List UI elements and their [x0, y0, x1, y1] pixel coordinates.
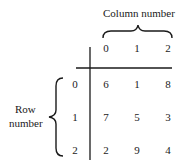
column-number-label: Column number: [103, 8, 175, 19]
row-label-line1: Row: [15, 104, 36, 115]
cell-1-0: 7: [100, 112, 112, 123]
cell-2-0: 2: [100, 145, 112, 156]
cell-1-2: 3: [162, 112, 174, 123]
table-lines-and-braces: [0, 0, 180, 162]
cell-0-0: 6: [100, 79, 112, 90]
column-header-2: 2: [162, 43, 174, 54]
column-header-0: 0: [100, 43, 112, 54]
row-label-line2: number: [9, 118, 43, 129]
cell-0-1: 1: [131, 79, 143, 90]
cell-2-1: 9: [131, 145, 143, 156]
row-brace: [49, 78, 63, 156]
cell-0-2: 8: [162, 79, 174, 90]
column-header-1: 1: [131, 43, 143, 54]
row-header-2: 2: [69, 145, 81, 156]
row-header-0: 0: [69, 79, 81, 90]
row-header-1: 1: [69, 112, 81, 123]
cell-2-2: 4: [162, 145, 174, 156]
column-brace: [103, 25, 172, 38]
cell-1-1: 5: [131, 112, 143, 123]
